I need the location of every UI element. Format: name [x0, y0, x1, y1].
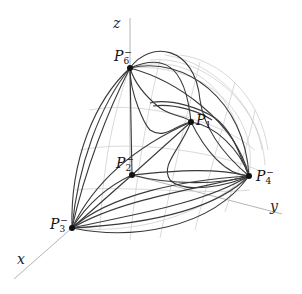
y-axis-label: y — [270, 199, 278, 213]
x-axis-label: x — [17, 252, 25, 266]
label-p6: P6− — [114, 48, 132, 66]
z-axis-label: z — [113, 16, 120, 30]
axes — [14, 18, 282, 279]
point-p1 — [188, 119, 194, 125]
sphere-octant-figure — [0, 0, 302, 294]
point-p3 — [69, 225, 75, 231]
label-p4: P4− — [256, 168, 274, 186]
curves — [72, 51, 249, 232]
label-p1: P1 — [196, 113, 211, 130]
label-p2: P2− — [116, 155, 134, 173]
diagram-canvas: z y x P6− P1 P2− P4− P3− — [0, 0, 302, 294]
label-p3: P3− — [50, 216, 68, 234]
sphere-grid — [72, 55, 268, 240]
point-p4 — [246, 173, 252, 179]
